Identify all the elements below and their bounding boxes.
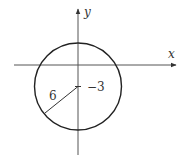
- center-label: −3: [87, 80, 105, 94]
- radius-label: 6: [49, 89, 57, 103]
- y-axis-label: y: [83, 5, 91, 19]
- x-axis-label: x: [168, 47, 175, 61]
- diagram-canvas: y x −3 6: [0, 0, 184, 160]
